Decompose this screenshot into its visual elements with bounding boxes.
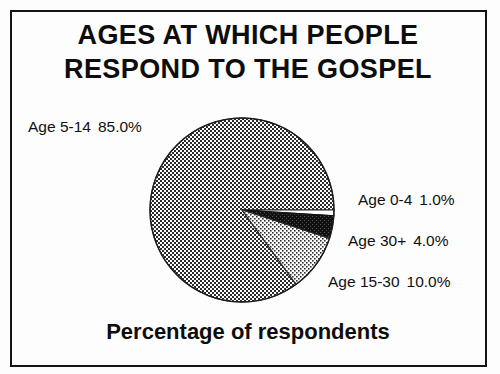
pie-label-age-30-plus-value: 4.0% bbox=[413, 232, 448, 249]
pie-label-age-0-4-name: Age 0-4 bbox=[358, 191, 412, 208]
pie-label-age-15-30-value: 10.0% bbox=[407, 273, 451, 290]
pie-label-age-0-4-value: 1.0% bbox=[419, 191, 454, 208]
pie-label-age-0-4: Age 0-41.0% bbox=[358, 191, 455, 209]
pie-label-age-5-14: Age 5-1485.0% bbox=[28, 118, 142, 136]
pie-label-age-5-14-name: Age 5-14 bbox=[28, 118, 91, 135]
pie-label-age-30-plus-name: Age 30+ bbox=[348, 232, 406, 249]
pie-svg bbox=[144, 112, 340, 308]
chart-caption: Percentage of respondents bbox=[14, 318, 482, 346]
pie-label-age-15-30: Age 15-3010.0% bbox=[328, 273, 450, 291]
chart-page: AGES AT WHICH PEOPLE RESPOND TO THE GOSP… bbox=[0, 0, 500, 374]
pie-label-age-15-30-name: Age 15-30 bbox=[328, 273, 400, 290]
pie-label-age-30-plus: Age 30+4.0% bbox=[348, 232, 449, 250]
pie-label-age-5-14-value: 85.0% bbox=[98, 118, 142, 135]
